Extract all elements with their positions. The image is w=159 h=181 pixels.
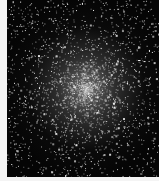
star-field <box>7 0 159 177</box>
star-cluster-photo <box>7 0 159 177</box>
